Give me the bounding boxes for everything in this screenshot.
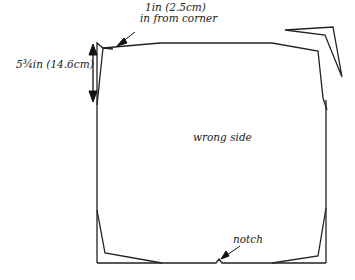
pattern-diagram <box>0 0 355 280</box>
height-arrow <box>89 44 97 102</box>
top-edge <box>103 43 327 110</box>
notch-pointer-arrow <box>221 246 240 259</box>
top-left-fold <box>97 48 103 105</box>
folded-corner-piece <box>285 27 342 77</box>
corner-pointer-arrow <box>117 32 135 46</box>
corner-label-line2: in from corner <box>140 12 217 24</box>
bottom-right-fold <box>272 208 326 263</box>
height-label: 5¾in (14.6cm) <box>16 58 94 70</box>
wrong-side-label: wrong side <box>193 131 252 143</box>
notch-label: notch <box>233 233 263 245</box>
bottom-left-fold <box>97 210 162 263</box>
